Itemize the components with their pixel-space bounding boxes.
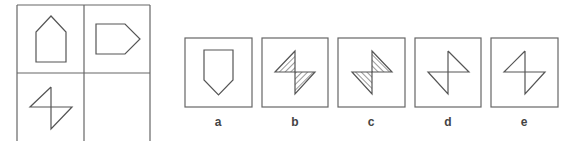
z-outline-shape: [504, 51, 545, 94]
option-c-label: c: [361, 115, 381, 129]
z-hatched-shape: [275, 51, 315, 94]
option-b-label: b: [285, 115, 305, 129]
pentagon-right-shape: [96, 24, 140, 54]
s-outline-shape: [428, 51, 469, 94]
pentagon-up-shape: [36, 16, 66, 62]
option-a-label: a: [208, 115, 228, 129]
option-a-box[interactable]: [185, 38, 252, 107]
option-d-label: d: [438, 115, 458, 129]
option-e-label: e: [514, 115, 534, 129]
z-triangles-shape: [30, 87, 72, 129]
pentagon-down-shape: [204, 50, 233, 95]
matrix-grid: [17, 5, 150, 141]
s-hatched-shape: [352, 51, 392, 94]
